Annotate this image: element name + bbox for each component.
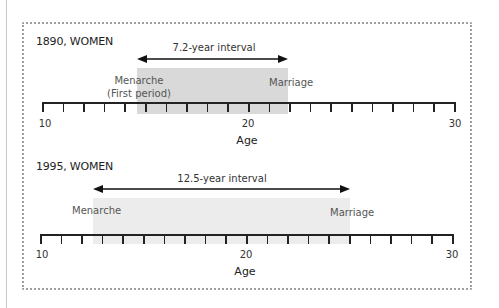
tick-label-10: 10 — [39, 118, 52, 129]
axis-tick — [267, 234, 269, 244]
event-menarche: Menarche (First period) — [107, 74, 171, 100]
axis-tick — [145, 102, 147, 112]
axis-tick — [454, 102, 456, 112]
event-menarche: Menarche — [72, 204, 121, 217]
axis-tick — [392, 102, 394, 112]
axis-tick — [413, 102, 415, 112]
axis-tick — [104, 102, 106, 112]
interval-arrow-icon — [137, 54, 289, 64]
axis-tick — [246, 234, 248, 244]
axis-tick — [122, 234, 124, 244]
interval-label: 12.5-year interval — [177, 173, 266, 184]
axis-tick — [372, 102, 374, 112]
axis-tick — [411, 234, 413, 244]
event-sublabel: (First period) — [107, 87, 171, 100]
event-marriage: Marriage — [269, 76, 313, 89]
axis-tick — [349, 234, 351, 244]
axis-tick — [370, 234, 372, 244]
axis-tick — [205, 234, 207, 244]
axis-tick — [431, 234, 433, 244]
axis-tick — [227, 102, 229, 112]
tick-label-20: 20 — [240, 249, 253, 260]
panel-title: 1890, WOMEN — [36, 35, 113, 48]
axis-tick — [164, 234, 166, 244]
axis-tick — [63, 102, 65, 112]
event-label: Menarche — [107, 74, 171, 87]
axis-tick — [186, 102, 188, 112]
axis-tick — [330, 102, 332, 112]
axis-tick — [452, 234, 454, 244]
axis-tick — [225, 234, 227, 244]
axis-tick — [310, 102, 312, 112]
axis-tick — [289, 102, 291, 112]
axis-tick — [328, 234, 330, 244]
axis-tick — [287, 234, 289, 244]
axis-tick — [81, 234, 83, 244]
axis-tick — [61, 234, 63, 244]
axis-tick — [83, 102, 85, 112]
axis-tick — [308, 234, 310, 244]
axis-tick — [166, 102, 168, 112]
interval-label: 7.2-year interval — [173, 42, 256, 53]
page-edge-line — [6, 0, 7, 308]
axis-tick — [143, 234, 145, 244]
panel-title: 1995, WOMEN — [36, 160, 113, 173]
tick-label-10: 10 — [36, 249, 49, 260]
axis-tick — [124, 102, 126, 112]
axis-tick — [207, 102, 209, 112]
axis-tick — [433, 102, 435, 112]
axis-tick — [390, 234, 392, 244]
axis-tick — [269, 102, 271, 112]
interval-shade — [93, 198, 350, 244]
interval-arrow-icon — [93, 184, 351, 194]
tick-label-20: 20 — [242, 118, 255, 129]
axis-label: Age — [234, 265, 255, 278]
axis-label: Age — [236, 134, 257, 147]
axis-tick — [40, 234, 42, 244]
axis-tick — [351, 102, 353, 112]
tick-label-30: 30 — [446, 249, 459, 260]
axis-tick — [42, 102, 44, 112]
event-marriage: Marriage — [330, 206, 374, 219]
tick-label-30: 30 — [449, 118, 462, 129]
axis-tick — [102, 234, 104, 244]
axis-tick — [184, 234, 186, 244]
axis-tick — [248, 102, 250, 112]
